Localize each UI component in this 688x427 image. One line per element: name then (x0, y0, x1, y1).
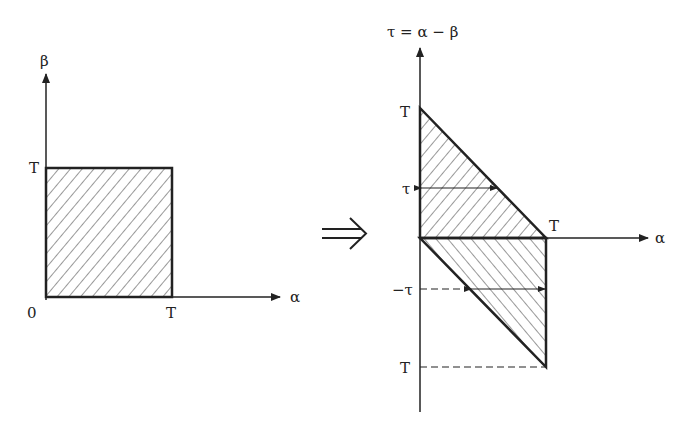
neg-tau-label: −τ (392, 281, 413, 299)
upper-hatched-triangle (420, 108, 546, 238)
top-t-label: T (400, 103, 410, 121)
alpha-axis-label-right: α (655, 229, 665, 247)
origin-label: 0 (27, 304, 37, 322)
alpha-axis-label-left: α (290, 288, 300, 306)
diagram-canvas: β α 0 T T τ = α − β α T τ T −τ T (0, 0, 688, 427)
tau-label: τ (402, 180, 410, 198)
right-diagram: τ = α − β α T τ T −τ T (387, 23, 665, 412)
bottom-t-label: T (400, 359, 410, 377)
y-tick-t-label: T (29, 159, 39, 177)
x-tick-t-label: T (166, 304, 176, 322)
tau-axis-label: τ = α − β (387, 23, 458, 41)
right-x-t-label: T (549, 217, 559, 235)
lower-hatched-triangle (420, 238, 546, 367)
left-diagram: β α 0 T T (27, 52, 300, 322)
hatched-square (46, 168, 172, 297)
beta-axis-label: β (40, 52, 49, 70)
implies-arrow-icon (322, 218, 366, 249)
